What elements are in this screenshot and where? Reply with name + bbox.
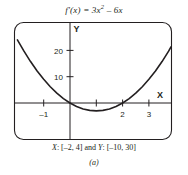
x-tick-label-2: 2 <box>120 110 125 119</box>
x-axis-label: X <box>157 90 163 100</box>
x-tick-label-minus1: –1 <box>39 110 48 119</box>
y-tick-label-20: 20 <box>54 47 63 56</box>
caption-y-range: : [–10, 30] <box>102 143 136 152</box>
y-axis-label: Y <box>74 24 80 34</box>
range-caption: X: [–2, 4] and Y: [–10, 30] <box>0 143 188 152</box>
caption-x-range: : [–2, 4] and <box>57 143 98 152</box>
plot-area: –1 2 3 10 20 X Y <box>0 0 188 148</box>
y-tick-label-10: 10 <box>54 73 63 82</box>
figure-panel: f'(x) = 3x2 – 6x –1 2 3 10 20 X <box>0 0 188 175</box>
x-tick-label-3: 3 <box>147 110 152 119</box>
figure-subcaption: (a) <box>0 158 188 167</box>
